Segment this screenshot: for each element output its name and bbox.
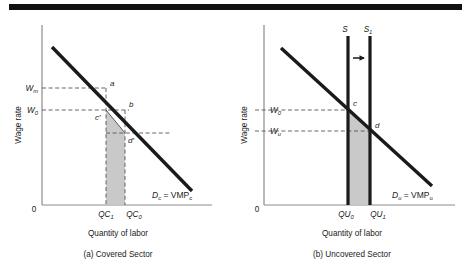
origin-label-covered: 0 [32,205,37,214]
x-axis-title-covered: Quantity of labor [88,229,148,238]
demand-label-covered: Dc = VMPc [152,190,192,201]
supply-label-s1: S1 [364,25,373,35]
ytick-label-wm: Wm [25,84,38,94]
x-axis-title-uncovered: Quantity of labor [322,229,382,238]
ytick-label-wu-uncovered: Wu [270,127,282,137]
panel-uncovered-sector: S S1 W0 Wu 0 QU0 QU1 c d [240,25,455,259]
point-label-c-prime: c′ [95,113,101,122]
y-axis-title-uncovered: Wage rate [240,106,249,144]
y-axis-title-covered: Wage rate [14,106,23,144]
panel-caption-uncovered: (b) Uncovered Sector [313,250,391,259]
point-label-a: a [110,79,115,88]
demand-label-uncovered: Du = VMPu [392,190,433,201]
point-label-b: b [129,100,134,109]
point-label-d-prime: d′ [128,136,134,145]
figure-container: Wm W0 0 QC1 QC0 a b c′ d′ [0,0,471,272]
shift-arrow-icon [353,55,365,60]
ytick-label-w0-uncovered: W0 [270,106,282,116]
xtick-label-qc1: QC1 [98,210,114,220]
supply-label-s: S [342,25,348,34]
xtick-label-qu1: QU1 [370,210,386,220]
origin-label-uncovered: 0 [255,205,260,214]
top-rule [9,4,462,10]
shaded-region-covered [106,110,125,204]
point-label-c: c [353,99,357,108]
panel-covered-sector: Wm W0 0 QC1 QC0 a b c′ d′ [14,25,212,259]
ytick-label-w0: W0 [27,106,39,116]
xtick-label-qc0: QC0 [126,210,142,220]
panel-caption-covered: (a) Covered Sector [83,250,152,259]
economics-figure: Wm W0 0 QC1 QC0 a b c′ d′ [0,0,471,272]
point-label-d: d [375,121,380,130]
xtick-label-qu0: QU0 [338,210,354,220]
